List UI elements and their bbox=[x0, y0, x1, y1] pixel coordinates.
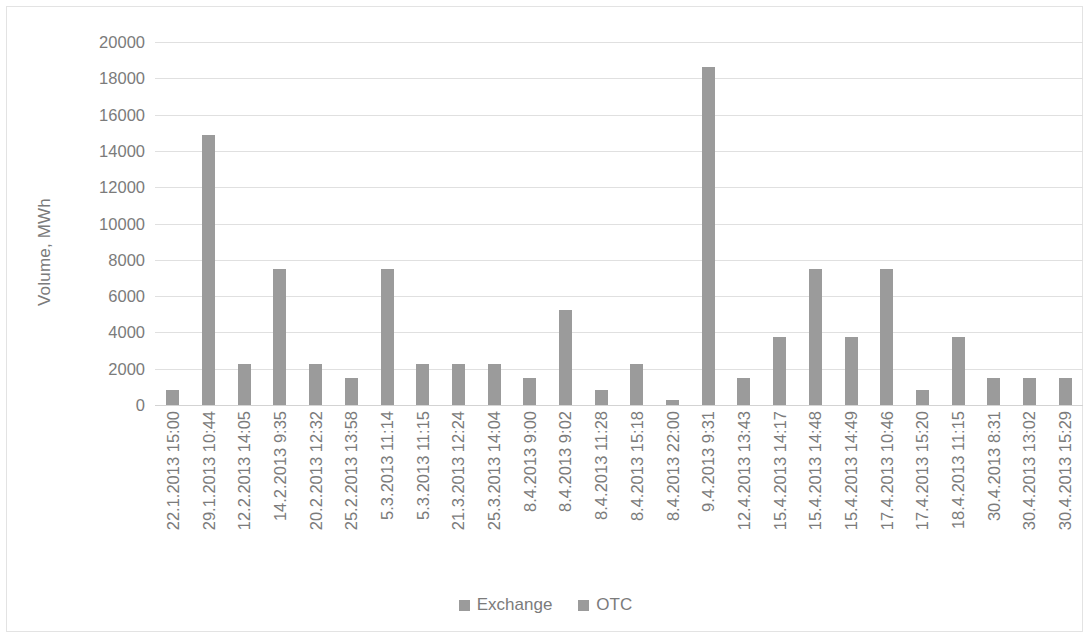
bar bbox=[952, 337, 965, 405]
gridline bbox=[155, 187, 1083, 188]
bar bbox=[273, 269, 286, 405]
legend-swatch-icon bbox=[578, 600, 589, 611]
y-axis-tick-label: 14000 bbox=[99, 141, 145, 160]
x-axis-tick-label: 15.4.2013 14:48 bbox=[806, 411, 825, 530]
bar bbox=[809, 269, 822, 405]
gridline bbox=[155, 260, 1083, 261]
bar bbox=[773, 337, 786, 405]
legend-label: OTC bbox=[596, 595, 632, 615]
plot-area bbox=[155, 42, 1083, 405]
x-axis-tick-label: 8.4.2013 9:02 bbox=[556, 411, 575, 512]
bar bbox=[737, 378, 750, 405]
x-axis-tick-label: 21.3.2013 12:24 bbox=[449, 411, 468, 530]
gridline bbox=[155, 369, 1083, 370]
bar bbox=[202, 135, 215, 405]
x-axis-tick-label: 22.1.2013 15:00 bbox=[164, 411, 183, 530]
y-axis-tick-label: 8000 bbox=[108, 250, 145, 269]
bar bbox=[452, 364, 465, 405]
legend-swatch-icon bbox=[459, 600, 470, 611]
chart-container: Volume, MWh 0200040006000800010000120001… bbox=[6, 6, 1083, 632]
bar bbox=[702, 67, 715, 405]
bar bbox=[1059, 378, 1072, 405]
y-axis-tick-label: 16000 bbox=[99, 105, 145, 124]
x-axis-tick-label: 29.1.2013 10:44 bbox=[200, 411, 219, 530]
gridline bbox=[155, 224, 1083, 225]
x-axis-tick-label: 14.2.2013 9:35 bbox=[271, 411, 290, 521]
x-axis-tick-label: 12.4.2013 13:43 bbox=[735, 411, 754, 530]
gridline bbox=[155, 42, 1083, 43]
x-axis-tick-label: 15.4.2013 14:17 bbox=[771, 411, 790, 530]
x-axis-tick-label: 8.4.2013 22:00 bbox=[664, 411, 683, 521]
legend-label: Exchange bbox=[477, 595, 553, 615]
gridline bbox=[155, 332, 1083, 333]
bar bbox=[916, 390, 929, 405]
bar bbox=[238, 364, 251, 405]
x-axis-tick-labels: 22.1.2013 15:0029.1.2013 10:4412.2.2013 … bbox=[155, 411, 1083, 579]
legend-item[interactable]: Exchange bbox=[459, 595, 553, 615]
x-axis-tick-label: 8.4.2013 15:18 bbox=[628, 411, 647, 521]
x-axis-tick-label: 25.2.2013 13:58 bbox=[342, 411, 361, 530]
y-axis-tick-label: 12000 bbox=[99, 178, 145, 197]
bar bbox=[381, 269, 394, 405]
bar bbox=[309, 364, 322, 405]
gridline bbox=[155, 405, 1083, 406]
y-axis-tick-label: 0 bbox=[136, 396, 145, 415]
y-axis-tick-label: 18000 bbox=[99, 69, 145, 88]
x-axis-tick-label: 5.3.2013 11:15 bbox=[414, 411, 433, 520]
x-axis-tick-label: 30.4.2013 15:29 bbox=[1056, 411, 1075, 530]
bar bbox=[880, 269, 893, 405]
x-axis-tick-label: 8.4.2013 11:28 bbox=[592, 411, 611, 520]
x-axis-tick-label: 12.2.2013 14:05 bbox=[235, 411, 254, 530]
y-axis-title: Volume, MWh bbox=[35, 127, 61, 377]
x-axis-tick-label: 5.3.2013 11:14 bbox=[378, 411, 397, 520]
bar bbox=[523, 378, 536, 405]
x-axis-tick-label: 25.3.2013 14:04 bbox=[485, 411, 504, 530]
y-axis-tick-labels: 0200040006000800010000120001400016000180… bbox=[62, 42, 145, 405]
x-axis-tick-label: 30.4.2013 8:31 bbox=[985, 411, 1004, 521]
x-axis-tick-label: 8.4.2013 9:00 bbox=[521, 411, 540, 512]
gridline bbox=[155, 78, 1083, 79]
bar bbox=[416, 364, 429, 405]
bar bbox=[488, 364, 501, 405]
y-axis-tick-label: 4000 bbox=[108, 323, 145, 342]
bar bbox=[559, 310, 572, 405]
chart-legend: ExchangeOTC bbox=[7, 595, 1084, 615]
bar bbox=[845, 337, 858, 405]
x-axis-tick-label: 15.4.2013 14:49 bbox=[842, 411, 861, 530]
x-axis-tick-label: 30.4.2013 13:02 bbox=[1020, 411, 1039, 530]
bar bbox=[987, 378, 1000, 405]
gridline bbox=[155, 296, 1083, 297]
x-axis-tick-label: 18.4.2013 11:15 bbox=[949, 411, 968, 529]
y-axis-tick-label: 2000 bbox=[108, 359, 145, 378]
bar bbox=[1023, 378, 1036, 405]
bar bbox=[166, 390, 179, 405]
gridline bbox=[155, 115, 1083, 116]
y-axis-tick-label: 6000 bbox=[108, 287, 145, 306]
x-axis-tick-label: 17.4.2013 15:20 bbox=[913, 411, 932, 530]
x-axis-tick-label: 17.4.2013 10:46 bbox=[878, 411, 897, 530]
legend-item[interactable]: OTC bbox=[578, 595, 632, 615]
x-axis-tick-label: 20.2.2013 12:32 bbox=[307, 411, 326, 530]
bar bbox=[345, 378, 358, 405]
y-axis-tick-label: 10000 bbox=[99, 214, 145, 233]
gridline bbox=[155, 151, 1083, 152]
bar bbox=[630, 364, 643, 405]
x-axis-tick-label: 9.4.2013 9:31 bbox=[699, 411, 718, 512]
y-axis-tick-label: 20000 bbox=[99, 33, 145, 52]
bar bbox=[666, 400, 679, 405]
bar bbox=[595, 390, 608, 405]
